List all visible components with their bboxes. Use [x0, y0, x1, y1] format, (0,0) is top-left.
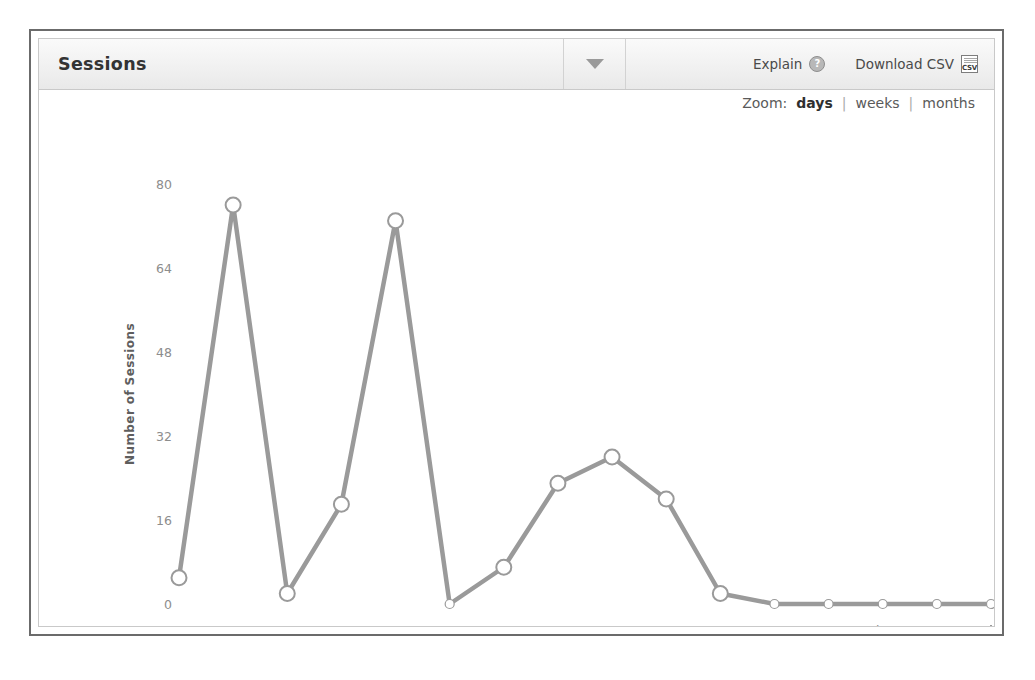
- sessions-line-series: [179, 205, 991, 604]
- y-axis-tick-label: 16: [156, 513, 172, 528]
- help-globe-icon: ?: [809, 56, 825, 72]
- data-point-marker[interactable]: [334, 497, 349, 512]
- download-csv-button[interactable]: Download CSV CSV: [855, 55, 978, 73]
- data-point-marker[interactable]: [280, 586, 295, 601]
- data-point-marker[interactable]: [770, 600, 779, 609]
- data-point-marker[interactable]: [605, 450, 620, 465]
- csv-file-icon: CSV: [961, 55, 978, 73]
- panel-title-cell: Sessions: [39, 39, 564, 89]
- data-point-marker[interactable]: [496, 560, 511, 575]
- y-axis-tick-label: 32: [156, 429, 172, 444]
- data-point-marker[interactable]: [388, 213, 403, 228]
- screenshot-root: Sessions Explain ? Download CSV CSV: [0, 0, 1035, 680]
- y-axis-tick-label: 0: [164, 597, 172, 612]
- data-point-marker[interactable]: [824, 600, 833, 609]
- data-point-marker[interactable]: [713, 586, 728, 601]
- data-point-marker[interactable]: [932, 600, 941, 609]
- y-axis-title: Number of Sessions: [123, 323, 137, 465]
- data-point-marker[interactable]: [878, 600, 887, 609]
- panel-dropdown-button[interactable]: [564, 39, 626, 89]
- x-axis-tick-label: Jan 22: [321, 623, 361, 627]
- panel-header: Sessions Explain ? Download CSV CSV: [39, 39, 994, 90]
- y-axis-tick-label: 80: [156, 177, 172, 192]
- explain-label: Explain: [753, 56, 802, 72]
- x-axis-tick-label: Jan 26: [537, 623, 577, 627]
- y-axis-tick-label: 64: [156, 261, 172, 276]
- data-point-marker[interactable]: [987, 600, 996, 609]
- chart-area: 01632486480Number of SessionsJan 20Jan 2…: [39, 90, 994, 627]
- data-point-marker[interactable]: [226, 198, 241, 213]
- x-axis-tick-label: Jan 30: [754, 623, 794, 627]
- page-title: Sessions: [58, 54, 147, 74]
- header-actions: Explain ? Download CSV CSV: [626, 39, 994, 89]
- x-axis-tick-label: Jan 28: [646, 623, 686, 627]
- x-axis-tick-label: Jan 24: [429, 623, 469, 627]
- chart-window-frame: Sessions Explain ? Download CSV CSV: [29, 29, 1004, 636]
- x-axis-tick-label: Feb 01: [862, 623, 904, 627]
- data-point-marker[interactable]: [550, 476, 565, 491]
- csv-icon-text: CSV: [962, 64, 977, 72]
- y-axis-tick-label: 48: [156, 345, 172, 360]
- data-point-marker[interactable]: [445, 600, 454, 609]
- data-point-marker[interactable]: [172, 570, 187, 585]
- chevron-down-icon: [586, 59, 604, 69]
- data-point-marker[interactable]: [659, 492, 674, 507]
- download-csv-label: Download CSV: [855, 56, 954, 72]
- explain-button[interactable]: Explain ?: [753, 56, 825, 72]
- x-axis-end-tick: [990, 625, 992, 627]
- sessions-panel: Sessions Explain ? Download CSV CSV: [38, 38, 995, 627]
- x-axis-tick-label: Jan 20: [213, 623, 253, 627]
- sessions-line-chart[interactable]: 01632486480Number of SessionsJan 20Jan 2…: [39, 90, 995, 627]
